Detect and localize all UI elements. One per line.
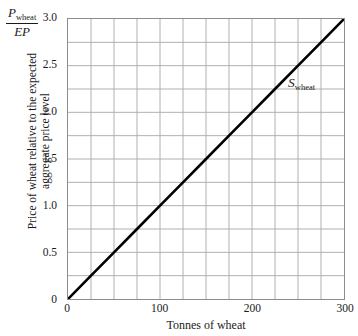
supply-curve-label: Swheat [288,76,315,92]
plot-area [67,18,345,300]
y-axis-tick-label: 2.5 [43,59,57,71]
y-axis-tick-label: 0.5 [43,247,57,259]
supply-curve-layer [68,19,344,299]
y-axis-tick-label: 1.0 [43,200,57,212]
x-axis-tick-label: 200 [244,303,261,315]
x-axis-title: Tonnes of wheat [67,319,345,331]
y-axis-tick-label: 0 [51,294,57,306]
y-axis-tick-label: 1.5 [43,153,57,165]
x-axis-tick-labels: 0100200300 [67,303,345,319]
supply-curve-line [68,19,344,299]
x-axis-tick-label: 0 [64,303,70,315]
y-axis-tick-label: 2.0 [43,106,57,118]
x-axis-tick-label: 100 [151,303,168,315]
wheat-supply-chart: Pwheat EP Price of wheat relative to the… [0,0,358,336]
supply-curve-label-symbol: S [288,75,295,90]
y-axis-tick-labels: 00.51.01.52.02.53.0 [0,18,63,300]
x-axis-tick-label: 300 [336,303,353,315]
supply-curve-label-subscript: wheat [295,82,315,92]
y-axis-tick-label: 3.0 [43,12,57,24]
